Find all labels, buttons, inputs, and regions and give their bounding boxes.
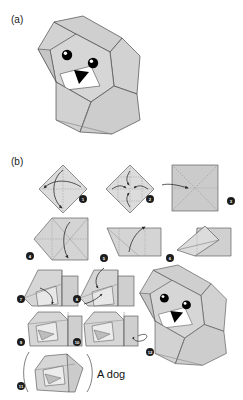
step-6-diagram (177, 226, 231, 256)
step-12-marker: 12 (146, 348, 154, 356)
origami-figure: (a) (b) (0, 0, 243, 400)
step-1-marker: 1 (79, 195, 87, 203)
step-4-diagram (34, 218, 88, 260)
panel-a-dog (38, 16, 140, 134)
step-11-marker: 11 (17, 382, 25, 390)
figure-canvas: 1 2 3 4 (0, 0, 243, 400)
step-7-marker: 7 (17, 295, 25, 303)
step-10-diagram (84, 312, 147, 346)
step-12-number: 12 (148, 350, 153, 355)
step-6-marker: 6 (166, 254, 174, 262)
step-3-diagram (162, 165, 218, 211)
step-11-diagram (24, 352, 93, 392)
step-4-marker: 4 (26, 252, 34, 260)
step-5-marker: 5 (100, 254, 108, 262)
step-7-diagram (24, 270, 78, 306)
step-5-diagram (107, 227, 161, 256)
step-8-marker: 8 (73, 295, 81, 303)
step-2-marker: 2 (146, 195, 154, 203)
step-8-diagram (80, 268, 134, 306)
figure-caption: A dog (97, 368, 125, 380)
step-11-number: 11 (19, 384, 24, 389)
step-10-marker: 10 (73, 338, 81, 346)
step-9-marker: 9 (17, 338, 25, 346)
step-3-marker: 3 (227, 197, 235, 205)
step-10-number: 10 (75, 340, 80, 345)
step-2-diagram (106, 165, 154, 213)
step-1-diagram (39, 165, 87, 213)
